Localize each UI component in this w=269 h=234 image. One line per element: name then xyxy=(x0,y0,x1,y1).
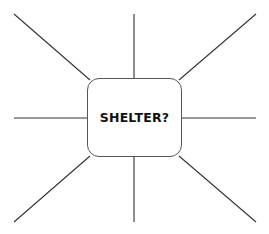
center-label: SHELTER? xyxy=(100,110,169,125)
spoke-top-left xyxy=(14,14,90,80)
spoke-bottom-right xyxy=(179,156,256,222)
center-node: SHELTER? xyxy=(87,78,182,157)
spoke-bottom-left xyxy=(14,156,90,222)
spoke-top-right xyxy=(179,14,256,80)
